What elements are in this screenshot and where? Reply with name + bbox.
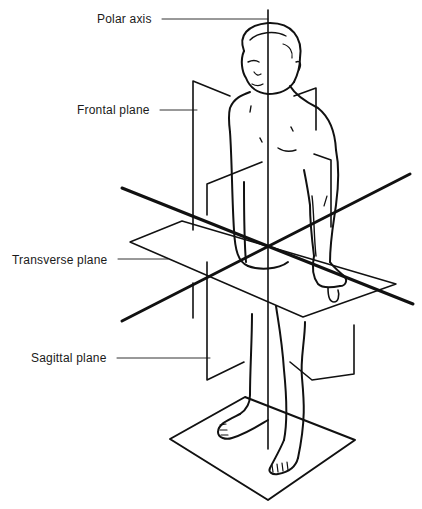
figure-legs xyxy=(218,306,305,474)
ground-plane xyxy=(170,397,355,500)
figure-arm xyxy=(304,150,346,302)
anatomical-planes-diagram: Polar axis Frontal plane Transverse plan… xyxy=(0,0,422,509)
frontal-plane xyxy=(193,81,331,318)
diagram-illustration xyxy=(0,0,422,509)
figure-head xyxy=(242,23,301,94)
figure-arm-left xyxy=(244,182,246,262)
axis-front-back xyxy=(122,174,410,321)
